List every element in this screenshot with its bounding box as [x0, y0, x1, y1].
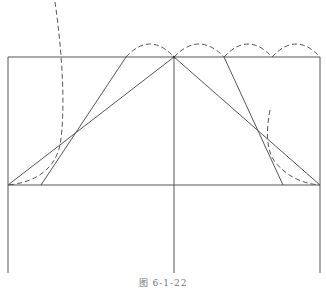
apex-point — [173, 56, 175, 58]
outer-left-slope — [8, 57, 174, 185]
outer-right-slope — [174, 57, 320, 185]
dashed-curve-left — [8, 2, 63, 185]
dashed-curve-right — [267, 110, 320, 185]
dashed-arc-1 — [126, 44, 174, 57]
dashed-arc-2 — [174, 44, 224, 57]
inner-left-slope — [41, 57, 126, 185]
dashed-arc-3 — [224, 44, 272, 57]
figure-caption: 图 6-1-22 — [0, 276, 326, 288]
dashed-arc-4 — [272, 44, 320, 57]
inner-right-slope — [224, 57, 283, 185]
geometric-construction-diagram — [0, 0, 326, 288]
